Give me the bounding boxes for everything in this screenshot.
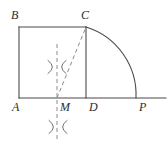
vertex-label-p: P [139,101,146,113]
vertex-label-d: D [89,101,98,113]
vertex-label-m: M [60,101,70,113]
vertex-label-b: B [11,9,18,21]
vertex-label-c: C [81,9,89,21]
arc-cp-path [86,27,136,98]
vertex-label-a: A [12,101,19,113]
compass-arc-intersection-lower-mark [49,121,67,134]
geometry-figure: B C A M D P [0,0,168,145]
segment-mc-dashed-line [57,27,86,98]
